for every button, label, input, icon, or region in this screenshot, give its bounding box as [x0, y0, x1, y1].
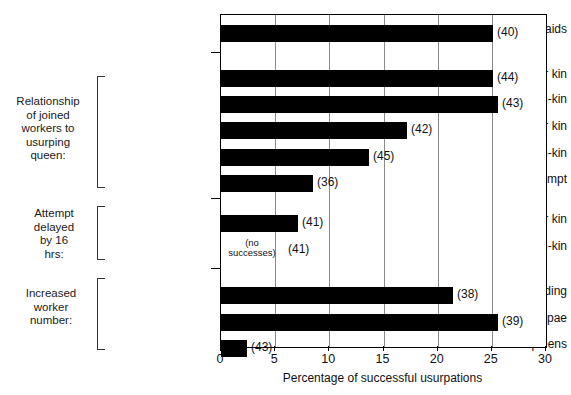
- plot-area: [220, 14, 547, 348]
- bar-value-delayed-familiar-kin: (41): [302, 214, 323, 231]
- group-label-attempt-delayed: Attempt delayed by 16 hrs:: [14, 207, 94, 261]
- bar-value-unfamiliar-kin: (42): [411, 121, 432, 138]
- bracket-increased-worker-number: [97, 278, 105, 350]
- bar-delayed-familiar-kin: [221, 215, 298, 232]
- bar-no-raid-prior-to-attempt: [221, 175, 313, 192]
- bar-familiar-kin: [221, 70, 493, 87]
- x-tick-25: [491, 346, 492, 351]
- bar-unfamiliar-non-kin: [221, 149, 369, 166]
- bar-value-three-queens: (43): [251, 339, 272, 356]
- x-tick-10: [328, 346, 329, 351]
- bar-enlarged-through-raiding: [221, 287, 453, 304]
- x-tick-label-20: 20: [430, 352, 444, 366]
- x-tick-0: [220, 346, 221, 351]
- bracket-relationship: [97, 76, 105, 188]
- gridline-25: [492, 15, 493, 347]
- bar-unfamiliar-kin: [221, 122, 407, 139]
- group-label-increased-worker-number: Increased worker number:: [8, 287, 94, 328]
- x-tick-30: [545, 346, 546, 351]
- x-tick-20: [437, 346, 438, 351]
- bar-value-delayed-unfamiliar-non-kin: (41): [288, 241, 309, 258]
- bar-value-familiar-non-kin: (43): [502, 95, 523, 112]
- x-tick-label-15: 15: [376, 352, 390, 366]
- x-tick-15: [383, 346, 384, 351]
- bar-value-enlarged-with-pupae: (39): [502, 313, 523, 330]
- bar-value-familiar-kin: (44): [497, 69, 518, 86]
- bracket-attempt-delayed: [97, 206, 105, 260]
- x-tick-label-5: 5: [271, 352, 278, 366]
- chart-figure: Relationship of joined workers to usurpi…: [0, 0, 571, 395]
- bar-value-enlarged-through-raiding: (38): [457, 286, 478, 303]
- x-tick-label-0: 0: [217, 352, 224, 366]
- x-axis-title: Percentage of successful usurpations: [220, 371, 545, 385]
- x-tick-5: [274, 346, 275, 351]
- bar-value-unmanipulated-raids: (40): [497, 24, 518, 41]
- bar-familiar-non-kin: [221, 96, 498, 113]
- bar-enlarged-with-pupae: [221, 314, 498, 331]
- bar-value-unfamiliar-non-kin: (45): [373, 148, 394, 165]
- no-successes-note: (no successes): [224, 238, 280, 258]
- x-tick-label-30: 30: [538, 352, 552, 366]
- x-tick-label-25: 25: [484, 352, 498, 366]
- bar-value-no-raid-prior-to-attempt: (36): [317, 174, 338, 191]
- x-tick-label-10: 10: [321, 352, 335, 366]
- bar-three-queens: [221, 340, 247, 357]
- group-label-relationship: Relationship of joined workers to usurpi…: [2, 95, 94, 163]
- bar-unmanipulated-raids: [221, 25, 493, 42]
